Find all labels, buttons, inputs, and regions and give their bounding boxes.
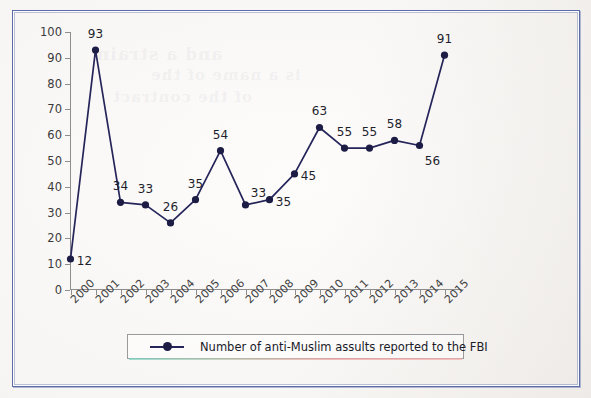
data-point-value-label: 34 xyxy=(113,179,128,193)
data-point-marker xyxy=(67,255,74,262)
y-axis-tick-label: 90 xyxy=(47,51,62,65)
data-point-marker xyxy=(266,196,273,203)
y-axis-tick-label: 20 xyxy=(47,231,62,245)
data-point-marker xyxy=(242,201,249,208)
data-point-value-label: 58 xyxy=(387,117,402,131)
data-point-marker xyxy=(391,137,398,144)
data-point-value-label: 56 xyxy=(425,154,440,168)
data-point-marker xyxy=(366,145,373,152)
data-point-value-label: 93 xyxy=(88,27,103,41)
line-chart: 0102030405060708090100 20002001200220032… xyxy=(12,10,578,385)
data-point-value-label: 26 xyxy=(163,200,178,214)
y-axis-tick xyxy=(65,290,70,291)
data-point-value-label: 12 xyxy=(77,254,92,268)
y-axis-tick-label: 60 xyxy=(47,128,62,142)
y-axis-tick-label: 50 xyxy=(47,154,62,168)
data-point-marker xyxy=(167,219,174,226)
data-point-marker xyxy=(441,52,448,59)
data-point-value-label: 55 xyxy=(362,125,377,139)
y-axis-tick-label: 10 xyxy=(47,257,62,271)
y-axis-tick-label: 70 xyxy=(47,102,62,116)
data-point-value-label: 35 xyxy=(276,195,291,209)
chart-legend: Number of anti-Muslim assults reported t… xyxy=(127,334,464,359)
data-point-marker xyxy=(341,145,348,152)
data-point-value-label: 91 xyxy=(437,32,452,46)
legend-label: Number of anti-Muslim assults reported t… xyxy=(200,340,488,354)
data-point-marker xyxy=(192,196,199,203)
data-series-line xyxy=(70,32,462,290)
plot-area: 0102030405060708090100 20002001200220032… xyxy=(70,32,462,290)
data-point-value-label: 45 xyxy=(301,169,316,183)
y-axis-tick-label: 80 xyxy=(47,77,62,91)
data-point-marker xyxy=(142,201,149,208)
data-point-value-label: 33 xyxy=(251,186,266,200)
data-point-marker xyxy=(416,142,423,149)
data-point-marker xyxy=(92,47,99,54)
y-axis-tick-label: 100 xyxy=(40,25,62,39)
data-point-value-label: 35 xyxy=(188,177,203,191)
data-point-marker xyxy=(117,199,124,206)
legend-marker-icon xyxy=(150,341,184,353)
data-point-marker xyxy=(291,170,298,177)
data-point-value-label: 54 xyxy=(213,128,228,142)
y-axis-tick-label: 40 xyxy=(47,180,62,194)
data-point-value-label: 33 xyxy=(138,182,153,196)
y-axis-tick-label: 30 xyxy=(47,206,62,220)
data-point-value-label: 63 xyxy=(312,104,327,118)
data-point-marker xyxy=(217,147,224,154)
data-point-value-label: 55 xyxy=(337,125,352,139)
y-axis-tick-label: 0 xyxy=(55,283,62,297)
data-point-marker xyxy=(316,124,323,131)
